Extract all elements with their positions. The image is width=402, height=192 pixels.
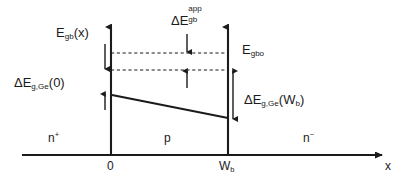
y-axis-label-sub: gb bbox=[65, 32, 74, 41]
region-label-collector-text: n bbox=[303, 131, 310, 145]
delta-egb-app-sup: app bbox=[188, 5, 201, 13]
delta-ege-zero-sub: g,Ge bbox=[31, 82, 48, 91]
delta-ege-wb-sub: g,Ge bbox=[261, 99, 278, 108]
region-label-base: p bbox=[164, 132, 171, 144]
y-axis-label: Egb(x) bbox=[56, 26, 89, 39]
delta-ege-wb-label: ΔEg,Ge(Wb) bbox=[244, 93, 304, 106]
region-label-emitter-sup: + bbox=[55, 130, 59, 139]
delta-egb-app-label: ΔEappgb bbox=[171, 12, 202, 27]
delta-ege-zero-label: ΔEg,Ge(0) bbox=[14, 76, 65, 89]
delta-ege-wb-delta: ΔE bbox=[244, 92, 261, 107]
x-tick-label-wb: Wb bbox=[219, 160, 234, 172]
region-label-emitter: n+ bbox=[48, 132, 59, 144]
delta-ege-zero-tail: (0) bbox=[49, 75, 65, 90]
delta-ege-wb-tail-sub: b bbox=[295, 99, 299, 108]
egbo-label: Egbo bbox=[242, 43, 264, 56]
bandgap-profile-line bbox=[112, 95, 228, 118]
x-axis-label-text: x bbox=[385, 159, 391, 173]
x-axis-label: x bbox=[385, 160, 391, 172]
delta-egb-app-sub: gb bbox=[188, 16, 197, 24]
x-tick-wb-text: W bbox=[219, 159, 230, 173]
delta-ege-zero-delta: ΔE bbox=[14, 75, 31, 90]
y-axis-label-tail: (x) bbox=[74, 25, 89, 40]
x-tick-label-origin: 0 bbox=[107, 160, 114, 172]
x-tick-wb-sub: b bbox=[230, 165, 234, 174]
egbo-main: E bbox=[242, 42, 251, 57]
delta-ege-wb-tail-pre: (W bbox=[279, 92, 296, 107]
delta-egb-app-delta: ΔE bbox=[171, 13, 188, 28]
region-label-base-text: p bbox=[164, 131, 171, 145]
region-label-emitter-text: n bbox=[48, 131, 55, 145]
delta-egb-app-scripts: appgb bbox=[188, 12, 202, 25]
x-tick-origin-text: 0 bbox=[107, 159, 114, 173]
band-diagram-figure: Egb(x) ΔEappgb Egbo ΔEg,Ge(0) ΔEg,Ge(Wb)… bbox=[0, 0, 402, 192]
delta-ege-wb-tail-post: ) bbox=[300, 92, 304, 107]
region-label-collector-sup: − bbox=[310, 130, 314, 139]
region-label-collector: n− bbox=[303, 132, 314, 144]
egbo-sub: gbo bbox=[251, 49, 264, 58]
y-axis-label-main: E bbox=[56, 25, 65, 40]
